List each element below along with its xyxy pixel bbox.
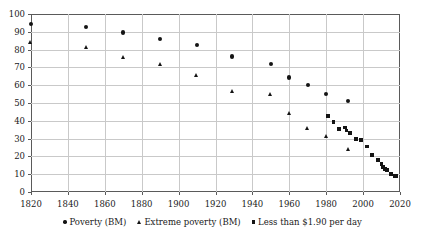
x-axis-tick-mark	[142, 192, 143, 195]
gridline-vertical	[363, 14, 364, 192]
legend-item[interactable]: Poverty (BM)	[63, 217, 126, 227]
legend-item[interactable]: Less than $1.90 per day	[252, 217, 362, 227]
y-axis-tick-label: 20	[0, 152, 25, 161]
y-axis-tick-mark	[28, 139, 31, 140]
x-axis-tick-mark	[105, 192, 106, 195]
x-axis-tick-mark	[216, 192, 217, 195]
x-axis-tick-label: 2000	[343, 200, 383, 209]
x-axis-tick-mark	[68, 192, 69, 195]
y-axis-tick-label: 90	[0, 28, 25, 37]
x-axis-tick-mark	[31, 192, 32, 195]
gridline-vertical	[326, 14, 327, 192]
x-axis-tick-label: 1920	[196, 200, 236, 209]
y-axis-tick-mark	[28, 85, 31, 86]
x-axis-tick-label: 1980	[306, 200, 346, 209]
y-axis-tick-mark	[28, 14, 31, 15]
y-axis-tick-mark	[28, 32, 31, 33]
x-axis-tick-label: 1940	[232, 200, 272, 209]
gridline-vertical	[216, 14, 217, 192]
x-axis-tick-mark	[326, 192, 327, 195]
gridline-vertical	[142, 14, 143, 192]
y-axis-tick-label: 80	[0, 46, 25, 55]
x-axis-tick-label: 1960	[269, 200, 309, 209]
y-axis-tick-label: 70	[0, 63, 25, 72]
legend-item-label: Poverty (BM)	[70, 217, 127, 227]
x-axis-tick-label: 1840	[48, 200, 88, 209]
y-axis-tick-mark	[28, 156, 31, 157]
x-axis-tick-mark	[289, 192, 290, 195]
y-axis-tick-label: 50	[0, 99, 25, 108]
y-axis-tick-mark	[28, 67, 31, 68]
legend-square-icon	[252, 220, 255, 223]
y-axis-tick-label: 60	[0, 81, 25, 90]
gridline-vertical	[252, 14, 253, 192]
poverty-scatter-chart: 0102030405060708090100 18201840186018801…	[0, 0, 425, 239]
x-axis-tick-label: 2020	[380, 200, 420, 209]
y-axis-tick-label: 10	[0, 170, 25, 179]
gridline-vertical	[68, 14, 69, 192]
y-axis-tick-label: 0	[0, 188, 25, 197]
gridlines	[31, 14, 400, 192]
gridline-vertical	[289, 14, 290, 192]
y-axis-tick-mark	[28, 103, 31, 104]
x-axis-tick-label: 1880	[122, 200, 162, 209]
legend-item-label: Extreme poverty (BM)	[144, 217, 240, 227]
legend-circle-icon	[63, 220, 66, 223]
x-axis-tick-label: 1860	[85, 200, 125, 209]
y-axis-tick-label: 100	[0, 10, 25, 19]
x-axis-tick-label: 1820	[11, 200, 51, 209]
y-axis-tick-mark	[28, 50, 31, 51]
legend-item-label: Less than $1.90 per day	[258, 217, 362, 227]
x-axis-tick-mark	[179, 192, 180, 195]
x-axis-tick-mark	[363, 192, 364, 195]
chart-legend: Poverty (BM)Extreme poverty (BM)Less tha…	[0, 217, 425, 227]
y-axis-tick-label: 30	[0, 135, 25, 144]
x-axis-tick-mark	[252, 192, 253, 195]
legend-item[interactable]: Extreme poverty (BM)	[137, 217, 240, 227]
y-axis-tick-mark	[28, 174, 31, 175]
x-axis-tick-mark	[400, 192, 401, 195]
y-axis-tick-label: 40	[0, 117, 25, 126]
gridline-vertical	[179, 14, 180, 192]
y-axis-tick-mark	[28, 121, 31, 122]
x-axis-tick-label: 1900	[159, 200, 199, 209]
gridline-vertical	[105, 14, 106, 192]
legend-triangle-icon	[137, 220, 141, 224]
